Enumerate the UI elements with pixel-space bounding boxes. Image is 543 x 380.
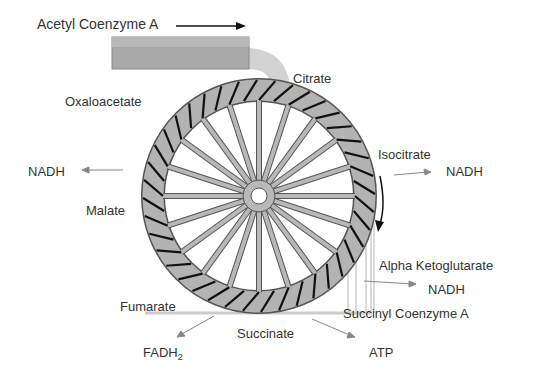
malate-label: Malate bbox=[86, 204, 125, 217]
fadh-text: FADH bbox=[143, 345, 178, 360]
succinate-label: Succinate bbox=[237, 327, 294, 340]
atp-label: ATP bbox=[369, 346, 393, 359]
succinyl-coa-label: Succinyl Coenzyme A bbox=[343, 307, 469, 320]
fadh2-label: FADH2 bbox=[143, 346, 183, 362]
water-wheel bbox=[143, 80, 375, 312]
fadh2-arrow-icon bbox=[177, 316, 214, 337]
alpha-ketoglutarate-label: Alpha Ketoglutarate bbox=[379, 259, 493, 272]
oxaloacetate-label: Oxaloacetate bbox=[65, 95, 142, 108]
nadh-akg-arrow-icon bbox=[364, 281, 416, 287]
fadh-subscript: 2 bbox=[178, 352, 183, 362]
isocitrate-label: Isocitrate bbox=[378, 148, 431, 161]
water-wheel-diagram: Acetyl Coenzyme A Citrate Isocitrate Alp… bbox=[0, 0, 543, 380]
nadh-isocitrate-arrow-icon bbox=[394, 169, 431, 175]
fumarate-label: Fumarate bbox=[120, 300, 176, 313]
nadh-isocitrate-label: NADH bbox=[446, 165, 483, 178]
nadh-akg-label: NADH bbox=[428, 283, 465, 296]
trough bbox=[112, 37, 249, 69]
acetyl-coa-label: Acetyl Coenzyme A bbox=[37, 17, 158, 31]
citrate-label: Citrate bbox=[293, 72, 331, 85]
nadh-malate-label: NADH bbox=[28, 165, 65, 178]
nadh-malate-arrow-icon bbox=[82, 167, 123, 173]
atp-arrow-icon bbox=[312, 319, 355, 338]
acetyl-coa-arrow-icon bbox=[176, 22, 246, 30]
